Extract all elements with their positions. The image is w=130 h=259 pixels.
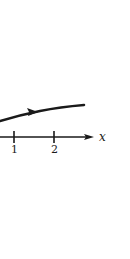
direction-arrow-icon [27, 108, 38, 116]
tick-1: 1 [11, 131, 18, 156]
trajectory-curve [0, 105, 84, 121]
x-axis: x [0, 130, 106, 144]
curve-path [0, 105, 84, 121]
tick-2: 2 [51, 131, 58, 156]
tick-label: 1 [11, 143, 18, 156]
x-axis-label: x [99, 130, 106, 144]
tick-label: 2 [51, 143, 58, 156]
diagram-canvas: x 1 2 [0, 0, 130, 259]
